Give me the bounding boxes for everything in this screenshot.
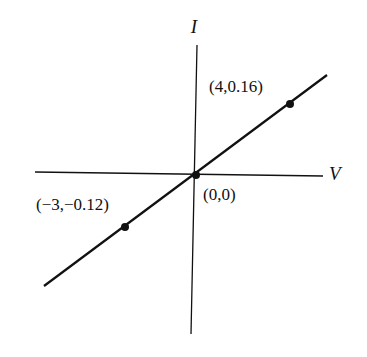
data-point-origin <box>192 171 200 179</box>
data-line <box>44 75 327 286</box>
x-axis-label: V <box>329 163 343 184</box>
data-point-upper <box>286 100 294 108</box>
point-label-origin: (0,0) <box>203 185 236 204</box>
point-label-upper: (4,0.16) <box>209 77 263 96</box>
y-axis <box>191 45 197 334</box>
iv-chart: I V (4,0.16) (0,0) (−3,−0.12) <box>0 0 367 357</box>
y-axis-label: I <box>190 16 199 37</box>
data-point-lower <box>121 223 129 231</box>
x-axis <box>35 172 323 176</box>
point-label-lower: (−3,−0.12) <box>36 195 109 214</box>
